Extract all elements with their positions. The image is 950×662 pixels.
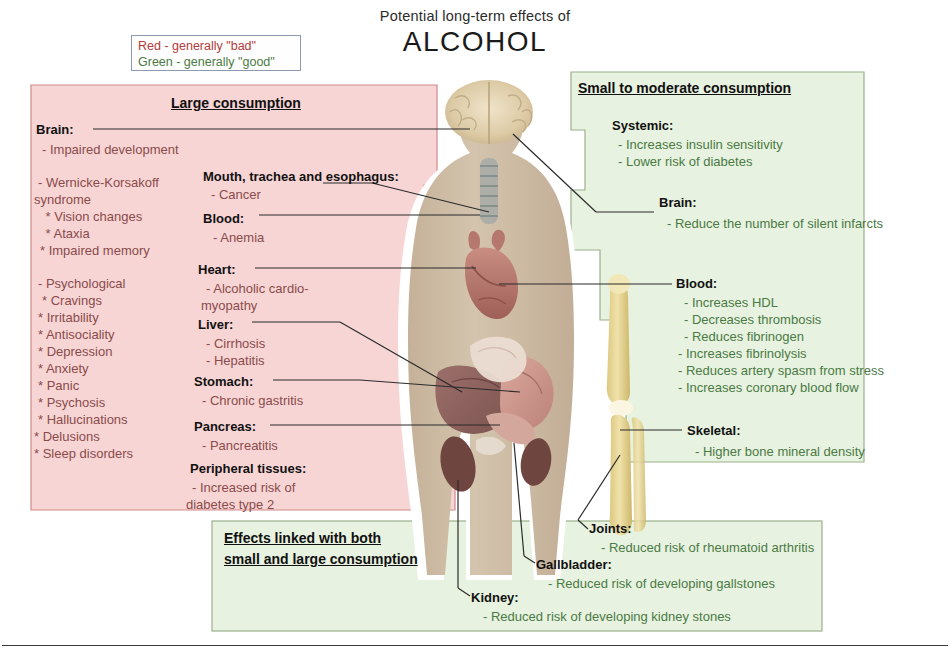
both-gallbladder-item-0: - Reduced risk of developing gallstones xyxy=(548,576,775,591)
moderate-blood-item-4: - Reduces artery spasm from stress xyxy=(678,363,884,378)
leader-brain-moderate xyxy=(513,134,596,212)
large-psy-item-3: * Antisociality xyxy=(38,327,115,342)
moderate-blood-item-5: - Increases coronary blood flow xyxy=(678,380,859,395)
large-mouth-head: Mouth, trachea and esophagus: xyxy=(203,169,399,184)
large-psy-item-7: * Psychosis xyxy=(38,395,105,410)
legend-box: Red - generally "bad" Green - generally … xyxy=(131,35,301,71)
large-wk-item-3: * Ataxia xyxy=(42,226,90,241)
moderate-consumption-heading: Small to moderate consumption xyxy=(578,80,791,96)
large-brain-item-0: - Impaired development xyxy=(42,142,179,157)
both-heading-line1: Effects linked with both xyxy=(224,530,381,546)
leader-liver2 xyxy=(340,322,462,392)
moderate-blood-item-2: - Reduces fibrinogen xyxy=(684,329,804,344)
large-wk-item-0: - Wernicke-Korsakoff xyxy=(38,175,159,190)
large-pancreas-item-0: - Pancreatitis xyxy=(202,438,278,453)
moderate-brain-item-0: - Reduce the number of silent infarcts xyxy=(667,216,883,231)
large-psy-item-2: * Irritability xyxy=(38,310,99,325)
large-psy-item-10: * Sleep disorders xyxy=(34,446,133,461)
moderate-skeletal-head: Skeletal: xyxy=(687,423,740,438)
leader-mouth2 xyxy=(372,183,489,212)
both-heading-line2: small and large consumption xyxy=(224,551,418,567)
leader-gallbladder xyxy=(514,443,524,556)
both-kidney-head: Kidney: xyxy=(471,590,519,605)
moderate-blood-item-3: - Increases fibrinolysis xyxy=(678,346,807,361)
moderate-systemic-head: Systemic: xyxy=(612,118,673,133)
large-liver-item-0: - Cirrhosis xyxy=(206,336,265,351)
large-mouth-item-0: - Cancer xyxy=(211,187,261,202)
title-subline: Potential long-term effects of xyxy=(0,8,950,24)
leader-stomach2 xyxy=(360,380,520,392)
large-stomach-item-0: - Chronic gastritis xyxy=(202,393,303,408)
large-heart-item-0: - Alcoholic cardio- xyxy=(206,281,309,296)
large-peripheral-item-0: - Increased risk of xyxy=(192,480,295,495)
large-peripheral-head: Peripheral tissues: xyxy=(190,461,306,476)
large-peripheral-item-1: diabetes type 2 xyxy=(186,497,274,512)
large-blood-head: Blood: xyxy=(203,211,244,226)
large-psy-item-5: * Anxiety xyxy=(38,361,89,376)
large-psy-item-1: * Cravings xyxy=(42,293,102,308)
large-psy-item-4: * Depression xyxy=(38,344,112,359)
leader-kidney2 xyxy=(458,588,470,596)
both-joints-head: Joints: xyxy=(589,521,632,536)
infographic-canvas: Potential long-term effects of ALCOHOL R… xyxy=(0,0,950,662)
large-stomach-head: Stomach: xyxy=(194,374,253,389)
large-liver-head: Liver: xyxy=(198,317,233,332)
leader-joints2 xyxy=(578,520,588,529)
moderate-skeletal-item-0: - Higher bone mineral density xyxy=(695,444,865,459)
large-heart-head: Heart: xyxy=(198,262,236,277)
moderate-blood-item-0: - Increases HDL xyxy=(684,295,778,310)
large-liver-item-1: - Hepatitis xyxy=(206,353,265,368)
moderate-systemic-item-0: - Increases insulin sensitivity xyxy=(618,137,783,152)
large-blood-item-0: - Anemia xyxy=(213,230,264,245)
moderate-systemic-item-1: - Lower risk of diabetes xyxy=(618,154,752,169)
legend-green: Green - generally "good" xyxy=(138,54,294,70)
large-psy-item-8: * Hallucinations xyxy=(38,412,128,427)
large-wk-item-1: syndrome xyxy=(34,192,91,207)
legend-red: Red - generally "bad" xyxy=(138,38,294,54)
both-gallbladder-head: Gallbladder: xyxy=(536,557,612,572)
large-heart-item-1: myopathy xyxy=(201,298,257,313)
leader-joints xyxy=(578,455,620,520)
moderate-brain-head: Brain: xyxy=(659,195,697,210)
large-pancreas-head: Pancreas: xyxy=(194,419,256,434)
leader-lines xyxy=(0,0,950,662)
bottom-divider xyxy=(2,645,948,646)
large-brain-head: Brain: xyxy=(36,122,74,137)
large-consumption-heading: Large consumption xyxy=(171,95,301,111)
large-wk-item-4: * Impaired memory xyxy=(40,243,150,258)
large-psy-item-9: * Delusions xyxy=(34,429,100,444)
moderate-blood-head: Blood: xyxy=(676,276,717,291)
large-psy-item-0: - Psychological xyxy=(38,276,125,291)
both-kidney-item-0: - Reduced risk of developing kidney ston… xyxy=(483,609,731,624)
leader-gallbladder2 xyxy=(524,556,535,563)
moderate-blood-item-1: - Decreases thrombosis xyxy=(684,312,821,327)
large-wk-item-2: * Vision changes xyxy=(42,209,142,224)
both-joints-item-0: - Reduced risk of rheumatoid arthritis xyxy=(601,540,814,555)
large-psy-item-6: * Panic xyxy=(38,378,79,393)
